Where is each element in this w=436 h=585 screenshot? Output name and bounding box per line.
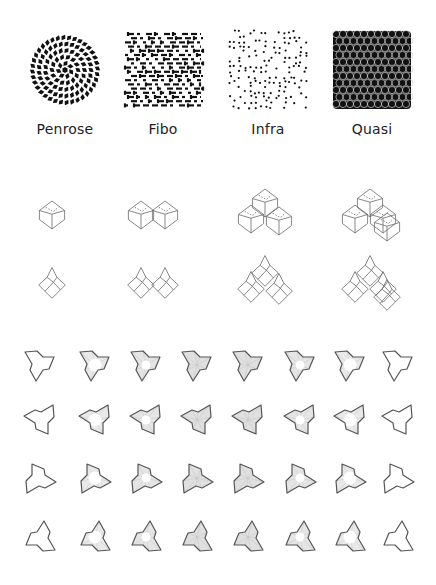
shape-tile	[378, 345, 418, 385]
shape-tile	[75, 517, 115, 557]
shape-tile	[280, 458, 320, 498]
2d-cluster-2	[108, 245, 198, 325]
shape-tile	[330, 517, 370, 557]
shape-tile	[126, 458, 166, 498]
shape-tile	[330, 458, 370, 498]
shape-tile	[228, 517, 268, 557]
shape-tile	[75, 400, 115, 440]
shape-tile	[126, 400, 166, 440]
shape-tile	[75, 345, 115, 385]
shape-tile	[378, 458, 418, 498]
tiling-label-fibo: Fibo	[113, 121, 213, 137]
shape-tile	[228, 345, 268, 385]
shape-tile	[177, 517, 217, 557]
shape-tile	[20, 458, 60, 498]
shape-tile	[177, 458, 217, 498]
shape-tile	[20, 400, 60, 440]
shape-tile	[228, 458, 268, 498]
3d-cluster-4	[325, 175, 415, 255]
shape-tile	[378, 400, 418, 440]
shape-tile	[280, 345, 320, 385]
shape-tile	[378, 517, 418, 557]
2d-cluster-4	[325, 245, 415, 325]
tiling-label-quasi: Quasi	[322, 121, 422, 137]
tiling-quasi-image	[330, 28, 414, 112]
shape-tile	[20, 345, 60, 385]
figure: PenroseFiboInfraQuasi	[0, 0, 436, 585]
shape-tile	[177, 400, 217, 440]
2d-cluster-1	[7, 245, 97, 325]
shape-tile	[280, 517, 320, 557]
shape-tile	[330, 345, 370, 385]
shape-tile	[20, 517, 60, 557]
tiling-label-infra: Infra	[218, 121, 318, 137]
shape-tile	[228, 400, 268, 440]
shape-tile	[75, 458, 115, 498]
3d-cluster-2	[108, 175, 198, 255]
2d-cluster-3	[220, 245, 310, 325]
tiling-fibo-image	[121, 28, 205, 112]
shape-tile	[280, 400, 320, 440]
tiling-penrose-image	[23, 28, 107, 112]
tiling-label-penrose: Penrose	[15, 121, 115, 137]
3d-cluster-1	[7, 175, 97, 255]
shape-tile	[177, 345, 217, 385]
3d-cluster-3	[220, 175, 310, 255]
shape-tile	[126, 345, 166, 385]
tiling-infra-image	[226, 28, 310, 112]
shape-tile	[330, 400, 370, 440]
shape-tile	[126, 517, 166, 557]
